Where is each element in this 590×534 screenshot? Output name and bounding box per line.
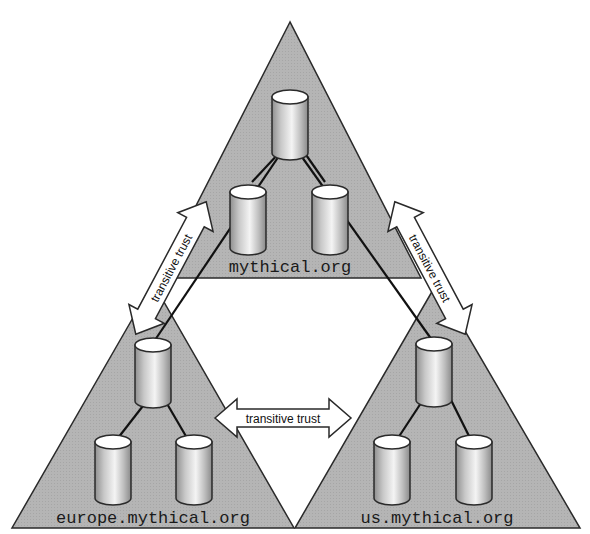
trust-diagram: mythical.org europe.mythical.org us.myth… <box>0 0 590 534</box>
database-icon <box>416 337 452 407</box>
domain-label-europe: europe.mythical.org <box>56 509 250 528</box>
database-icon <box>135 338 171 408</box>
database-icon <box>95 435 131 505</box>
database-icon <box>272 90 308 160</box>
database-icon <box>176 435 212 505</box>
database-icon <box>230 185 266 255</box>
domain-label-root: mythical.org <box>229 258 351 277</box>
trust-label: transitive trust <box>246 412 321 426</box>
database-icon <box>456 435 492 505</box>
trust-arrow-europe-us: transitive trust <box>215 399 351 437</box>
database-icon <box>374 435 410 505</box>
domain-label-us: us.mythical.org <box>360 509 513 528</box>
database-icon <box>312 185 348 255</box>
